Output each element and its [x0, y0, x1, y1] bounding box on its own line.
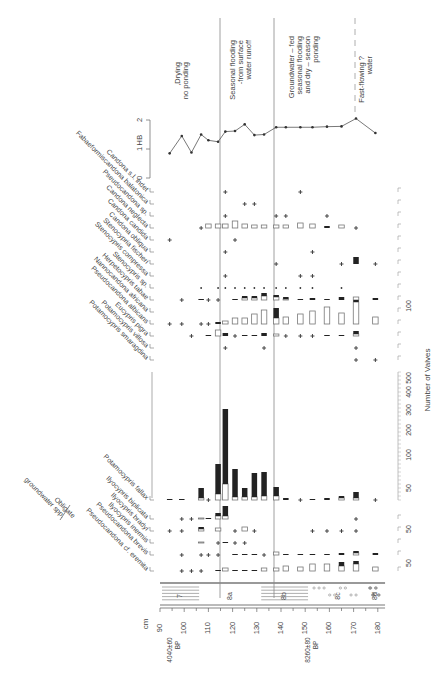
radiocarbon-date: 8260±80	[304, 637, 311, 663]
species-labels: Candona s.l. indetFabaeformiscandona bal…	[23, 129, 151, 571]
depth-tick-label: 170	[349, 622, 358, 635]
species-row	[223, 346, 358, 350]
depth-unit-label: cm	[141, 618, 150, 629]
valve-tick-label: 300	[405, 404, 412, 416]
species-row	[199, 221, 358, 230]
depth-tick-label: 120	[228, 622, 237, 635]
ostracod-stratigraphy-chart: 78a8b8c8d90100110120130140150160170180cm…	[0, 0, 442, 676]
zone-label: ponding	[311, 36, 320, 63]
lithology-column: 78a8b8c8d	[160, 583, 385, 605]
species-row	[200, 287, 342, 289]
species-row	[168, 527, 358, 533]
depth-tick-label: 130	[252, 622, 261, 635]
species-row	[198, 541, 246, 545]
depth-tick-label: 90	[155, 624, 164, 632]
species-row	[223, 274, 314, 278]
valve-tick-label: 200	[405, 424, 412, 436]
row-brackets	[150, 188, 154, 571]
depth-tick-label: 140	[276, 622, 285, 635]
species-row	[223, 250, 314, 254]
svg-text:50: 50	[405, 559, 412, 567]
species-row	[354, 358, 377, 362]
depth-tick-label: 160	[324, 622, 333, 635]
valve-tick-label: 100	[405, 449, 412, 461]
zone-label: no ponding	[181, 62, 190, 99]
svg-text:50: 50	[405, 525, 412, 533]
species-row	[243, 202, 257, 206]
radiocarbon-bp: BP	[174, 641, 181, 650]
lithology-unit-label: 8c	[334, 592, 341, 600]
species-row	[167, 409, 377, 502]
valve-tick-label: 50	[405, 484, 412, 492]
svg-text:1: 1	[135, 147, 144, 151]
depth-tick-label: 150	[300, 622, 309, 635]
species-row	[168, 300, 378, 326]
zone-label: water runoff	[244, 39, 253, 80]
svg-text:2: 2	[135, 118, 144, 122]
zone-label: water	[365, 56, 374, 76]
depth-tick-label: 100	[179, 622, 188, 635]
species-row	[180, 506, 358, 521]
hb-axis-label: HB	[135, 135, 144, 146]
species-row	[223, 214, 329, 218]
lithology-unit-label: 8d	[371, 592, 378, 600]
valve-count-axis: 501002003004005001005050Number of Valves	[398, 188, 432, 571]
species-row	[180, 293, 378, 302]
species-rows	[167, 190, 378, 573]
radiocarbon-bp: BP	[312, 641, 319, 650]
lithology-unit-label: 8a	[226, 592, 233, 600]
lithology-unit-label: 7	[176, 594, 183, 598]
svg-text:100: 100	[405, 300, 412, 312]
species-row	[180, 561, 378, 573]
hb-curve: 012HB	[135, 117, 377, 180]
radiocarbon-date: 4040±60	[166, 637, 173, 663]
species-row	[168, 238, 237, 242]
valve-axis-title: Number of Valves	[423, 349, 432, 412]
depth-axis: 90100110120130140150160170180cm4040±60BP…	[141, 608, 385, 663]
species-row	[180, 551, 378, 557]
valve-tick-label: 400	[405, 386, 412, 398]
species-row	[223, 190, 302, 194]
depth-tick-label: 110	[203, 622, 212, 634]
species-row	[274, 257, 377, 266]
lithology-unit-label: 8b	[280, 592, 287, 600]
depth-tick-label: 180	[373, 622, 382, 635]
valve-tick-label: 500	[405, 372, 412, 384]
